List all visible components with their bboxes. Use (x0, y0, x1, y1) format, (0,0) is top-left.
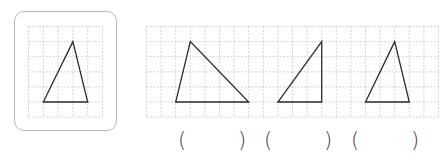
options-grid (147, 27, 439, 118)
figure-canvas (0, 0, 447, 161)
answer-blank-3-close: ) (411, 128, 419, 152)
answer-blank-3-open: ( (351, 128, 359, 152)
answer-blank-1-open: ( (178, 128, 186, 152)
reference-grid (29, 27, 103, 118)
answer-blank-2-open: ( (264, 128, 272, 152)
answer-blank-1-close: ) (238, 128, 246, 152)
answer-blank-2-close: ) (324, 128, 332, 152)
